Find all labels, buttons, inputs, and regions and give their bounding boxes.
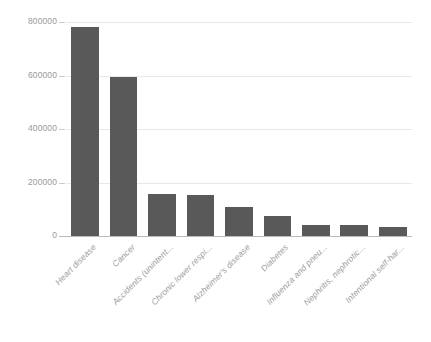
- ytick-label-200000-wrap: 200000: [0, 178, 57, 188]
- ytick-mark-800000: [59, 22, 65, 23]
- ytick-label-600000: 600000: [5, 71, 57, 80]
- bar-cancer[interactable]: [110, 77, 138, 236]
- ytick-label-0-wrap: 0: [0, 231, 57, 241]
- ytick-mark-400000: [59, 129, 65, 130]
- bar-accidents[interactable]: [148, 194, 176, 236]
- bar-nephritis-nephrotic[interactable]: [340, 225, 368, 236]
- bars-layer: [66, 22, 412, 236]
- ytick-label-400000: 400000: [5, 124, 57, 133]
- xtick-label-heart-disease: Heart disease: [53, 242, 98, 287]
- bar-alzheimers-disease[interactable]: [225, 207, 253, 236]
- bar-chronic-lower-respiratory[interactable]: [187, 195, 215, 236]
- x-axis-line: [59, 236, 412, 237]
- ytick-label-600000-wrap: 600000: [0, 71, 57, 81]
- xtick-label-diabetes: Diabetes: [259, 242, 290, 273]
- bar-chart: 800000 600000 400000 200000 0 Heart dise…: [0, 0, 431, 342]
- ytick-label-200000: 200000: [5, 178, 57, 187]
- bar-intentional-self-harm[interactable]: [379, 227, 407, 236]
- bar-influenza-pneumonia[interactable]: [302, 225, 330, 236]
- ytick-label-400000-wrap: 400000: [0, 124, 57, 134]
- ytick-label-800000: 800000: [5, 17, 57, 26]
- bar-heart-disease[interactable]: [71, 27, 99, 236]
- bar-diabetes[interactable]: [264, 216, 292, 236]
- xtick-label-cancer: Cancer: [110, 242, 137, 269]
- ytick-label-0: 0: [5, 231, 57, 240]
- ytick-mark-200000: [59, 183, 65, 184]
- ytick-mark-600000: [59, 76, 65, 77]
- ytick-label-800000-wrap: 800000: [0, 17, 57, 27]
